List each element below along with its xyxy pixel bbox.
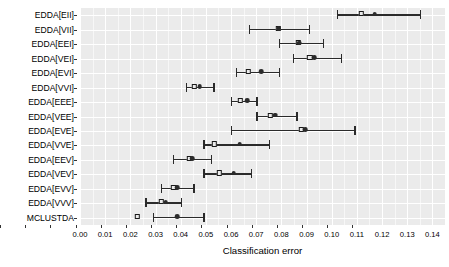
error-bar-cap-low [249, 25, 250, 34]
error-bar-cap-low [153, 213, 154, 222]
error-bar-cap-high [193, 184, 194, 193]
error-bar-cap-high [296, 112, 297, 121]
error-bar-cap-low [231, 97, 232, 106]
y-axis-label-eddaeev: EDDA[EEV] [28, 154, 74, 166]
error-bar-cap-high [309, 25, 310, 34]
y-axis-tick [74, 145, 77, 146]
median-marker-circle [190, 156, 195, 161]
x-axis-tick-labels: 0.000.010.020.030.040.050.060.070.080.09… [0, 229, 449, 241]
error-bar-cap-high [256, 97, 257, 106]
y-axis-labels: EDDA[EII]EDDA[VII]EDDA[EEI]EDDA[VEI]EDDA… [0, 8, 74, 225]
y-axis-label-eddaeve: EDDA[EVE] [28, 125, 74, 137]
y-axis-label-eddaevv: EDDA[EVV] [28, 183, 74, 195]
error-bar-line [231, 130, 354, 131]
x-axis-tick-label: 0.07 [249, 229, 264, 241]
error-bar-cap-high [354, 126, 355, 135]
x-axis-tick [151, 225, 152, 228]
median-marker-circle [245, 98, 250, 103]
y-axis-tick [74, 44, 77, 45]
data-row [80, 23, 445, 37]
x-axis-tick [176, 225, 177, 228]
data-row [80, 167, 445, 181]
median-marker-circle [231, 171, 236, 176]
y-axis-tick [74, 174, 77, 175]
error-bar-cap-high [181, 198, 182, 207]
median-marker-circle [197, 84, 202, 89]
x-axis-tick [76, 225, 77, 228]
x-axis-tick-label: 0.03 [148, 229, 163, 241]
error-bar-cap-low [173, 155, 174, 164]
median-marker-circle [163, 200, 168, 205]
error-bar-cap-high [420, 10, 421, 19]
data-row [80, 153, 445, 167]
mean-marker-square [217, 170, 222, 175]
y-axis-tick [74, 73, 77, 74]
plot-panel [80, 8, 445, 225]
y-axis-tick [74, 189, 77, 190]
error-bar-cap-high [323, 39, 324, 48]
x-axis-tick-label: 0.04 [173, 229, 188, 241]
x-axis-tick [101, 225, 102, 228]
mean-marker-square [135, 214, 140, 219]
y-axis-tick [74, 30, 77, 31]
error-bar-cap-high [279, 68, 280, 77]
error-bar-cap-high [251, 169, 252, 178]
x-axis-tick-label: 0.06 [224, 229, 239, 241]
x-axis-tick [25, 225, 26, 228]
y-axis-label-mclustda: MCLUSTDA [27, 212, 74, 224]
data-row [80, 138, 445, 152]
median-marker-circle [238, 142, 243, 147]
error-bar-cap-low [231, 126, 232, 135]
y-axis-label-eddavvi: EDDA[VVI] [31, 82, 74, 94]
data-row [80, 8, 445, 22]
error-bar-cap-low [203, 140, 204, 149]
median-marker-circle [259, 69, 264, 74]
y-axis-ticks [74, 8, 78, 225]
x-axis-tick-label: 0.10 [324, 229, 339, 241]
x-axis-tick [50, 225, 51, 228]
x-axis-tick-label: 0.12 [375, 229, 390, 241]
y-axis-label-eddavii: EDDA[VII] [35, 24, 74, 36]
error-bar-line [236, 72, 279, 73]
x-axis-tick [277, 225, 278, 228]
error-bar-cap-high [213, 83, 214, 92]
mean-marker-square [359, 11, 364, 16]
y-axis-tick [74, 160, 77, 161]
data-row [80, 196, 445, 210]
error-bar-line [231, 101, 256, 102]
error-bar-cap-low [236, 68, 237, 77]
error-bar-line [293, 58, 341, 59]
mean-marker-square [245, 69, 250, 74]
error-bar-cap-high [203, 213, 204, 222]
y-axis-tick [74, 203, 77, 204]
classification-error-dotplot: EDDA[EII]EDDA[VII]EDDA[EEI]EDDA[VEI]EDDA… [0, 0, 449, 267]
error-bar-cap-high [341, 54, 342, 63]
x-axis-tick [201, 225, 202, 228]
data-row [80, 124, 445, 138]
median-marker-circle [312, 55, 317, 60]
median-marker-circle [277, 26, 282, 31]
y-axis-label-eddavve: EDDA[VVE] [28, 139, 74, 151]
error-bar-cap-low [279, 39, 280, 48]
error-bar-cap-low [186, 83, 187, 92]
error-bar-cap-high [269, 140, 270, 149]
data-row [80, 81, 445, 95]
error-bar-line [203, 173, 251, 174]
x-axis-title: Classification error [80, 245, 445, 256]
x-axis-tick [227, 225, 228, 228]
error-bar-cap-low [293, 54, 294, 63]
x-axis-tick-label: 0.11 [350, 229, 364, 241]
median-marker-circle [303, 127, 308, 132]
error-bar-cap-high [211, 155, 212, 164]
error-bar-cap-low [256, 112, 257, 121]
error-bar-cap-low [203, 169, 204, 178]
mean-marker-square [238, 98, 243, 103]
error-bar-line [337, 14, 420, 15]
x-axis-tick [126, 225, 127, 228]
median-marker-circle [372, 12, 377, 17]
data-row [80, 66, 445, 80]
error-bar-cap-low [145, 198, 146, 207]
y-axis-label-eddaeei: EDDA[EEI] [31, 38, 74, 50]
y-axis-label-eddaevi: EDDA[EVI] [31, 67, 74, 79]
median-marker-circle [273, 113, 278, 118]
